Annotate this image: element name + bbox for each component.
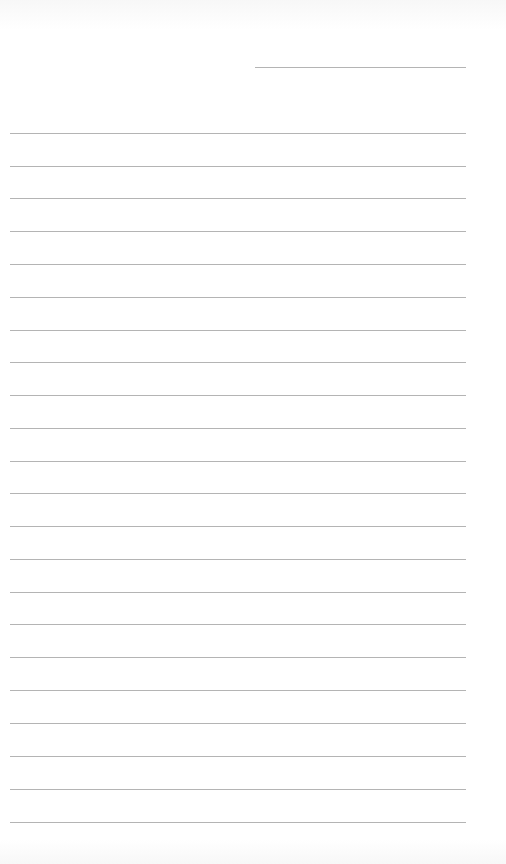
- ruled-line: [10, 198, 466, 199]
- bleed-through-bottom: [0, 840, 506, 864]
- ruled-line: [10, 624, 466, 625]
- ruled-line: [10, 362, 466, 363]
- ruled-line: [10, 493, 466, 494]
- ruled-line: [10, 690, 466, 691]
- ruled-line: [10, 657, 466, 658]
- ruled-line: [10, 756, 466, 757]
- ruled-line: [10, 822, 466, 823]
- ruled-line: [10, 297, 466, 298]
- ruled-line: [10, 166, 466, 167]
- bleed-through-top: [0, 0, 506, 30]
- ruled-line: [10, 133, 466, 134]
- ruled-line: [10, 264, 466, 265]
- ruled-line: [10, 231, 466, 232]
- ruled-line: [10, 526, 466, 527]
- header-date-line: [255, 67, 466, 68]
- ruled-line: [10, 592, 466, 593]
- ruled-line: [10, 395, 466, 396]
- ruled-line: [10, 789, 466, 790]
- ruled-line: [10, 461, 466, 462]
- ruled-line: [10, 428, 466, 429]
- ruled-line: [10, 330, 466, 331]
- ruled-line: [10, 723, 466, 724]
- ruled-line: [10, 559, 466, 560]
